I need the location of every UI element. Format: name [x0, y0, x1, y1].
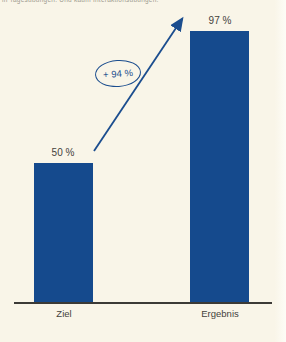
- value-label-ziel: 50 %: [28, 147, 98, 158]
- figure-page: in Tagesübungen. Und kaum Interaktionsüb…: [0, 0, 286, 342]
- x-axis-line: [14, 302, 272, 304]
- bar-ergebnis: [190, 31, 249, 303]
- category-label-ziel: Ziel: [29, 308, 99, 319]
- bar-ziel: [34, 163, 93, 303]
- category-label-ergebnis: Ergebnis: [185, 308, 255, 319]
- value-label-ergebnis: 97 %: [185, 15, 255, 26]
